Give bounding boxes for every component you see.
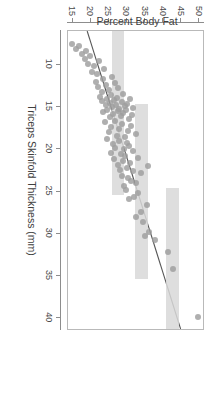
data-point — [119, 99, 125, 105]
data-point — [120, 91, 126, 97]
data-point — [127, 160, 133, 166]
data-point — [119, 173, 125, 179]
x-tick — [56, 275, 60, 276]
plot-area — [67, 30, 204, 330]
x-tick — [56, 64, 60, 65]
data-point — [145, 163, 151, 169]
data-point — [99, 89, 105, 95]
data-point — [120, 158, 126, 164]
data-point — [69, 41, 75, 47]
data-point — [128, 123, 134, 129]
data-point — [104, 136, 110, 142]
data-point — [152, 237, 158, 243]
data-point — [91, 63, 97, 69]
x-tick-label: 15 — [44, 101, 54, 111]
data-point — [119, 121, 125, 127]
chart-figure: 10152025303540 Triceps Skinfold Thicknes… — [0, 0, 216, 395]
y-axis-title: Percent Body Fat — [69, 15, 206, 27]
data-point — [146, 229, 152, 235]
data-point — [87, 53, 93, 59]
data-point — [109, 74, 115, 80]
x-tick-label: 10 — [44, 59, 54, 69]
x-tick — [56, 191, 60, 192]
x-tick — [56, 106, 60, 107]
x-tick-label: 30 — [44, 228, 54, 238]
x-tick — [56, 317, 60, 318]
data-point — [133, 131, 139, 137]
data-point — [89, 69, 95, 75]
data-point — [102, 119, 108, 125]
data-point — [114, 133, 120, 139]
data-point — [76, 43, 82, 49]
data-point — [138, 209, 144, 215]
data-point — [133, 214, 139, 220]
data-point — [124, 140, 130, 146]
data-point — [165, 249, 171, 255]
data-point — [130, 105, 136, 111]
x-tick-label: 40 — [44, 312, 54, 322]
data-point — [93, 79, 99, 85]
x-axis-line — [60, 30, 61, 330]
x-tick-label: 20 — [44, 143, 54, 153]
data-point — [135, 155, 141, 161]
x-tick — [56, 233, 60, 234]
data-point — [96, 58, 102, 64]
x-tick — [56, 148, 60, 149]
data-point — [144, 202, 150, 208]
data-point — [110, 141, 116, 147]
x-axis-title: Triceps Skinfold Thickness (mm) — [26, 30, 38, 330]
rotated-figure-wrapper: 10152025303540 Triceps Skinfold Thicknes… — [0, 0, 216, 395]
data-point — [130, 168, 136, 174]
x-tick-label: 35 — [44, 270, 54, 280]
data-point — [129, 112, 135, 118]
x-tick-label: 25 — [44, 186, 54, 196]
reference-band-35 — [166, 188, 179, 330]
data-point — [101, 66, 107, 72]
data-point — [127, 96, 133, 102]
data-point — [195, 314, 201, 320]
data-point — [106, 87, 112, 93]
data-point — [114, 95, 120, 101]
